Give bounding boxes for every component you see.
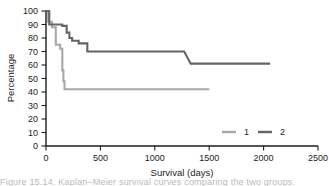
plot-canvas: 0102030405060708090100 05001000150020002… bbox=[0, 0, 329, 186]
series-line-2 bbox=[46, 11, 270, 64]
y-axis-title: Percentage bbox=[5, 54, 16, 103]
series-line-1 bbox=[46, 11, 209, 89]
x-axis-ticks: 05001000150020002500 bbox=[43, 146, 328, 163]
x-tick-label: 500 bbox=[93, 153, 108, 163]
y-axis-ticks: 0102030405060708090100 bbox=[23, 6, 46, 151]
x-tick-label: 2500 bbox=[308, 153, 328, 163]
y-tick-label: 60 bbox=[28, 60, 38, 70]
x-tick-label: 2000 bbox=[254, 153, 274, 163]
y-tick-label: 20 bbox=[28, 114, 38, 124]
legend-label-1: 1 bbox=[244, 127, 249, 137]
x-tick-label: 1000 bbox=[145, 153, 165, 163]
y-tick-label: 70 bbox=[28, 47, 38, 57]
x-tick-label: 0 bbox=[43, 153, 48, 163]
y-tick-label: 0 bbox=[33, 141, 38, 151]
y-tick-label: 80 bbox=[28, 33, 38, 43]
y-tick-label: 30 bbox=[28, 101, 38, 111]
figure-caption: Figure 15.14. Kaplan–Meier survival curv… bbox=[0, 177, 329, 186]
x-tick-label: 1500 bbox=[199, 153, 219, 163]
legend-label-2: 2 bbox=[280, 127, 285, 137]
data-series-layer bbox=[46, 11, 270, 89]
y-tick-label: 50 bbox=[28, 74, 38, 84]
chart-legend: 12 bbox=[222, 127, 285, 137]
y-tick-label: 90 bbox=[28, 20, 38, 30]
y-tick-label: 100 bbox=[23, 6, 38, 16]
y-tick-label: 40 bbox=[28, 87, 38, 97]
survival-curve-figure: 0102030405060708090100 05001000150020002… bbox=[0, 0, 329, 186]
y-tick-label: 10 bbox=[28, 128, 38, 138]
